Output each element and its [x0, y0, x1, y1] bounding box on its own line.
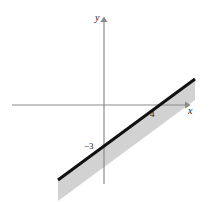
graph-figure: y x 4 −3: [0, 0, 209, 202]
shaded-region: [58, 79, 195, 201]
y-tick-label-neg3: −3: [84, 142, 94, 151]
y-axis-arrowhead: [101, 17, 108, 23]
boundary-line: [58, 79, 195, 180]
x-tick-label-4: 4: [150, 110, 155, 119]
y-axis-label: y: [95, 13, 99, 23]
coordinate-plane-svg: [0, 0, 209, 202]
x-axis-label: x: [188, 106, 192, 116]
